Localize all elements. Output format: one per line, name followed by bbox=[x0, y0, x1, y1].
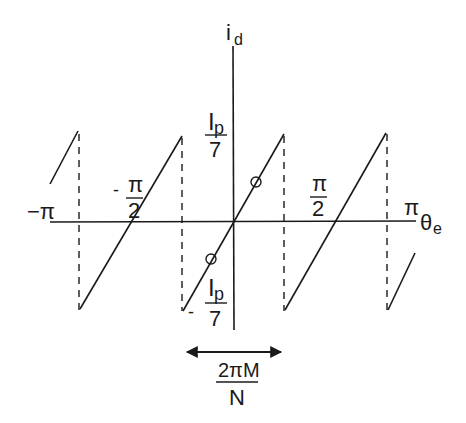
x-axis-label: θ bbox=[420, 210, 432, 235]
y-axis bbox=[233, 46, 234, 330]
diagram-canvas: i d θ e −π - π 2 π 2 π I p 7 - I p 7 2πM… bbox=[0, 0, 466, 423]
tick-pi: π bbox=[404, 195, 419, 220]
tick-ip7-den: 7 bbox=[209, 137, 221, 162]
tick-pi-half-den: 2 bbox=[312, 196, 324, 221]
y-axis-label: i bbox=[226, 20, 231, 45]
y-axis-label-subscript: d bbox=[234, 31, 243, 48]
period-denominator: N bbox=[229, 385, 245, 410]
period-numerator: 2πM bbox=[218, 359, 260, 381]
tick-minus-pi: −π bbox=[27, 199, 55, 224]
sawtooth-diagram: i d θ e −π - π 2 π 2 π I p 7 - I p 7 2πM… bbox=[0, 0, 466, 423]
x-axis-label-subscript: e bbox=[433, 220, 442, 237]
tick-minus-ip7-sign: - bbox=[188, 302, 194, 322]
tick-minus-pi-half-den: 2 bbox=[128, 198, 140, 223]
tick-pi-half-num: π bbox=[312, 171, 327, 196]
tick-minus-pi-half-num: π bbox=[128, 172, 143, 197]
tick-minus-pi-half-sign: - bbox=[113, 180, 119, 200]
tick-minus-ip7-num-sub: p bbox=[214, 284, 224, 304]
tick-minus-ip7-den: 7 bbox=[209, 306, 221, 331]
